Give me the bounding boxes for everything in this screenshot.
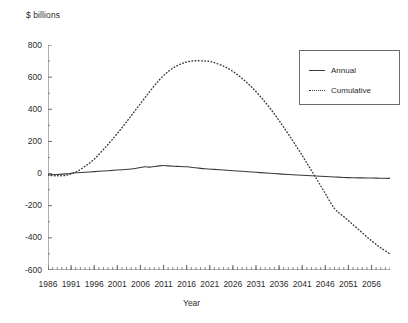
chart-figure: $ billions 8006004002000-200-400-600 198… <box>0 0 408 323</box>
y-tick-label: 200 <box>8 136 42 146</box>
y-tick-label: 400 <box>8 104 42 114</box>
legend-label-cumulative: Cumulative <box>331 86 371 95</box>
legend-item-cumulative: Cumulative <box>309 84 371 96</box>
x-tick-label: 2056 <box>355 279 389 289</box>
chart-legend: Annual Cumulative <box>299 50 400 105</box>
y-tick-label: -600 <box>8 265 42 275</box>
legend-swatch-solid-icon <box>309 70 325 71</box>
legend-label-annual: Annual <box>331 66 356 75</box>
y-tick-label: -200 <box>8 200 42 210</box>
legend-item-annual: Annual <box>309 64 356 76</box>
y-tick-label: -400 <box>8 232 42 242</box>
y-tick-label: 600 <box>8 72 42 82</box>
legend-swatch-dotted-icon <box>309 90 325 91</box>
y-axis-label: $ billions <box>26 10 60 20</box>
y-tick-label: 0 <box>8 168 42 178</box>
y-tick-label: 800 <box>8 40 42 50</box>
x-axis-label: Year <box>183 298 200 308</box>
